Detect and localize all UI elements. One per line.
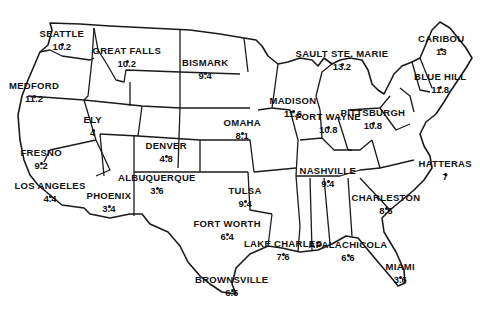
city-label: MIAMI3.6: [386, 262, 415, 284]
city-name: BROWNSVILLE: [195, 275, 269, 285]
city-name: CARIBOU: [418, 34, 464, 44]
city-value: 7: [419, 172, 472, 182]
city-value: 8.1: [224, 131, 261, 141]
city-value: 13: [418, 47, 464, 57]
city-name: HATTERAS: [419, 159, 472, 169]
city-label: MEDFORD11.2: [9, 81, 59, 103]
city-label: TULSA9.4: [229, 186, 262, 208]
city-label: ELY4: [84, 115, 103, 137]
city-label: LOS ANGELES4.4: [15, 181, 86, 203]
city-name: TULSA: [229, 186, 262, 196]
city-name: FORT WORTH: [194, 219, 261, 229]
city-label: HATTERAS7: [419, 159, 472, 181]
city-value: 6.6: [309, 253, 388, 263]
city-name: CHARLESTON: [352, 193, 421, 203]
city-value: 3.4: [87, 204, 132, 214]
city-label: CHARLESTON8.6: [352, 193, 421, 215]
city-value: 4.4: [15, 194, 86, 204]
city-value: 9.4: [182, 71, 228, 81]
city-label: NASHVILLE9.4: [300, 166, 357, 188]
city-name: MIAMI: [386, 262, 415, 272]
city-label: APALACHICOLA6.6: [309, 240, 388, 262]
city-name: PHOENIX: [87, 191, 132, 201]
city-label: BISMARK9.4: [182, 58, 228, 80]
city-value: 10.2: [93, 59, 162, 69]
city-label: FRESNO9.2: [21, 148, 62, 170]
city-name: SAULT STE. MARIE: [296, 49, 389, 59]
city-label: PHOENIX3.4: [87, 191, 132, 213]
city-value: 8.6: [352, 206, 421, 216]
city-label: OMAHA8.1: [224, 118, 261, 140]
city-name: SEATTLE: [40, 29, 85, 39]
city-value: 3.6: [386, 275, 415, 285]
city-value: 10.2: [40, 42, 85, 52]
city-name: DENVER: [146, 141, 187, 151]
city-label: SAULT STE. MARIE13.2: [296, 49, 389, 71]
us-map: SEATTLE10.2GREAT FALLS10.2BISMARK9.4SAUL…: [0, 0, 480, 315]
city-value: 9.4: [300, 179, 357, 189]
city-label: BROWNSVILLE6.6: [195, 275, 269, 297]
city-value: 9.2: [21, 161, 62, 171]
city-value: 6.6: [195, 288, 269, 298]
city-label: PITTSBURGH10.8: [341, 108, 406, 130]
city-name: PITTSBURGH: [341, 108, 406, 118]
city-name: LOS ANGELES: [15, 181, 86, 191]
city-label: SEATTLE10.2: [40, 29, 85, 51]
city-label: CARIBOU13: [418, 34, 464, 56]
city-name: NASHVILLE: [300, 166, 357, 176]
city-name: ALBUQUERQUE: [118, 173, 196, 183]
city-value: 9.4: [229, 199, 262, 209]
city-name: BISMARK: [182, 58, 228, 68]
city-name: FRESNO: [21, 148, 62, 158]
city-name: OMAHA: [224, 118, 261, 128]
city-name: ELY: [84, 115, 103, 125]
city-value: 4.8: [146, 154, 187, 164]
city-label: BLUE HILL11.8: [414, 72, 466, 94]
city-label: GREAT FALLS10.2: [93, 46, 162, 68]
city-name: GREAT FALLS: [93, 46, 162, 56]
city-value: 4: [84, 128, 103, 138]
city-value: 13.2: [296, 62, 389, 72]
city-label: DENVER4.8: [146, 141, 187, 163]
city-name: MEDFORD: [9, 81, 59, 91]
city-value: 11.8: [414, 85, 466, 95]
city-value: 11.2: [9, 94, 59, 104]
city-name: MADISON: [270, 96, 317, 106]
city-name: APALACHICOLA: [309, 240, 388, 250]
city-name: BLUE HILL: [414, 72, 466, 82]
city-value: 10.8: [341, 121, 406, 131]
